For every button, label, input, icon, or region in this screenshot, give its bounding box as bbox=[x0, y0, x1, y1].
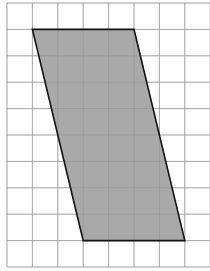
grid-diagram bbox=[0, 0, 210, 271]
